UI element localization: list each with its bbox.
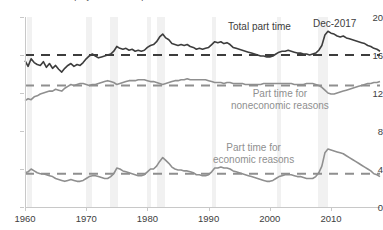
chart-title: Share of employment that is part time [24, 0, 177, 1]
y-axis-line [25, 17, 26, 207]
y-axis-tick-label: 8 [363, 126, 383, 137]
x-axis-tick-mark [270, 207, 271, 211]
economic-label-line1: Part time for [213, 142, 294, 154]
part-time-employment-chart: Share of employment that is part time 04… [0, 0, 383, 230]
x-axis-tick-mark [86, 207, 87, 211]
x-axis-tick-mark [209, 207, 210, 211]
series-line [25, 31, 380, 72]
x-axis-tick-label: 2010 [320, 213, 341, 224]
noneconomic-label-line2: noneconomic reasons [231, 100, 329, 112]
y-axis-tick-mark [20, 17, 24, 18]
y-axis-tick-label: 20 [363, 12, 383, 23]
noneconomic-reasons-label: Part time for noneconomic reasons [231, 88, 329, 112]
y-axis-tick-label: 4 [363, 164, 383, 175]
series-line [25, 149, 380, 181]
x-axis-tick-mark [147, 207, 148, 211]
y-axis-tick-label: 16 [363, 50, 383, 61]
y-axis-tick-mark [20, 169, 24, 170]
y-axis-tick-mark [20, 55, 24, 56]
x-axis-tick-label: 1960 [14, 213, 35, 224]
y-axis-tick-mark [20, 207, 24, 208]
total-part-time-label: Total part time [228, 21, 291, 33]
series-lines-layer [25, 17, 380, 207]
x-axis-line [25, 207, 380, 208]
x-axis-tick-label: 1970 [76, 213, 97, 224]
x-axis-tick-mark [25, 207, 26, 211]
economic-label-line2: economic reasons [213, 154, 294, 166]
y-axis-tick-label: 0 [363, 202, 383, 213]
x-axis-tick-mark [331, 207, 332, 211]
y-axis-tick-label: 12 [363, 88, 383, 99]
x-axis-tick-label: 2000 [259, 213, 280, 224]
x-axis-tick-label: 1980 [137, 213, 158, 224]
plot-area [25, 17, 380, 207]
noneconomic-label-line1: Part time for [231, 88, 329, 100]
economic-reasons-label: Part time for economic reasons [213, 142, 294, 166]
y-axis-tick-mark [20, 131, 24, 132]
end-date-label: Dec-2017 [313, 18, 356, 30]
x-axis-tick-label: 1990 [198, 213, 219, 224]
y-axis-tick-mark [20, 93, 24, 94]
